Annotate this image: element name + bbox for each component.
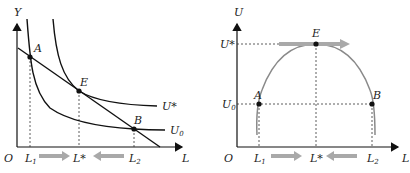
left-tick-l2: L2 [128,152,141,166]
point-b [369,101,374,106]
point-a [27,54,32,59]
right-origin-label: O [224,152,233,165]
indifference-curve-ustar [53,19,157,106]
left-arrow-icon [326,151,357,161]
left-x-axis-label: L [181,152,189,165]
left-label-b: B [133,114,142,127]
y-tick-ustar: U* [220,38,235,51]
right-label-b: B [372,89,381,102]
point-b [131,126,136,131]
curve-label-u0: U0 [170,124,184,138]
right-y-axis-label: U [234,6,244,19]
left-origin-label: O [4,152,13,165]
diagram-canvas: Y L O A E B U* U0 L1 L* L2 [0,0,410,173]
left-tick-l1: L1 [24,152,37,166]
budget-line [18,48,160,147]
right-arrow-icon [39,151,70,161]
right-label-e: E [311,27,320,40]
right-tick-l2: L2 [366,152,379,166]
point-e [313,41,318,46]
indifference-curve-u0 [27,19,165,130]
y-tick-u0: U0 [222,98,236,112]
point-a [256,101,261,106]
right-arrow-icon [271,151,302,161]
curve-label-ustar: U* [162,100,177,113]
left-tick-lstar: L* [72,152,86,165]
left-panel: Y L O A E B U* U0 L1 L* L2 [4,6,189,166]
left-label-e: E [79,76,88,89]
right-x-axis-label: L [401,152,409,165]
right-tick-l1: L1 [253,152,266,166]
right-panel: U L O E A B U* U0 L1 L* L2 [220,6,409,166]
right-label-a: A [253,89,262,102]
right-tick-lstar: L* [309,152,323,165]
point-e [76,88,81,93]
left-y-axis-label: Y [14,6,23,19]
left-label-a: A [33,42,42,55]
left-arrow-icon [93,151,124,161]
